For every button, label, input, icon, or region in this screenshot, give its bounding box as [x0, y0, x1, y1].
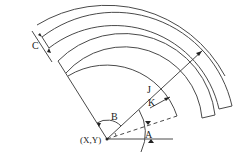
left-radial-line — [58, 61, 107, 139]
label-a: A — [145, 129, 153, 140]
label-b: B — [111, 111, 118, 122]
label-c: C — [32, 40, 39, 51]
band-1-outer-arc — [58, 34, 215, 115]
arc-diagram: C J K A B (X,Y) — [0, 0, 244, 163]
inner-sector-arc — [68, 65, 177, 116]
c-arrow-bottom-icon — [47, 48, 51, 53]
label-center: (X,Y) — [80, 135, 101, 145]
label-j: J — [147, 84, 151, 95]
band-2-outer-arc — [42, 12, 232, 106]
band-2-inner-arc — [49, 26, 219, 109]
band-1-right-cap — [202, 115, 215, 118]
small-angle-arc — [115, 133, 116, 136]
jk-radial-line — [107, 50, 203, 139]
outer-arc — [37, 5, 225, 76]
band-1-inner-arc — [66, 47, 202, 118]
center-point — [106, 138, 109, 141]
c-arrow-top-icon — [38, 33, 42, 37]
label-k: K — [148, 97, 156, 108]
angle-b-arrow-icon — [97, 123, 101, 127]
band-2-right-cap — [219, 106, 232, 109]
band-2-left-cap — [42, 37, 49, 48]
